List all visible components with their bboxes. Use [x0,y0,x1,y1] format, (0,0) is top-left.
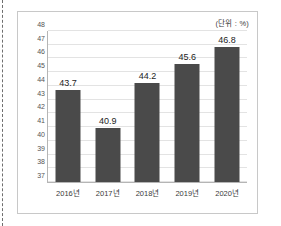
y-axis-tick-label: 41 [37,117,45,124]
y-axis-tick-label: 43 [37,89,45,96]
y-axis-tick-label: 37 [37,172,45,179]
bar[interactable] [55,90,80,182]
y-axis-tick-label: 40 [37,130,45,137]
bar-group: 45.62019년 [167,31,207,182]
y-axis-tick-label: 45 [37,62,45,69]
y-axis-tick-label: 38 [37,158,45,165]
unit-annotation: (단위 : %) [215,17,249,28]
plot-area: 373839404142434445464748 43.72016년40.920… [47,31,247,183]
bar-value-label: 46.8 [218,35,236,45]
y-axis-tick-label: 48 [37,21,45,28]
bar-group: 44.22018년 [128,31,168,182]
x-axis-tick-label: 2019년 [175,187,199,198]
chart-card: (단위 : %) 373839404142434445464748 43.720… [17,11,258,214]
y-axis-tick-label: 42 [37,103,45,110]
bar-value-label: 43.7 [59,78,77,88]
x-axis-tick-label: 2018년 [136,187,160,198]
bar[interactable] [95,128,120,182]
y-axis-tick-label: 44 [37,75,45,82]
y-axis-tick-label: 47 [37,34,45,41]
x-axis-tick-label: 2016년 [56,187,80,198]
bar-value-label: 40.9 [99,116,117,126]
bar[interactable] [135,83,160,182]
bar-value-label: 44.2 [139,71,157,81]
x-axis-tick-label: 2020년 [215,187,239,198]
bar-group: 46.82020년 [207,31,247,182]
bar-group: 40.92017년 [88,31,128,182]
bar-group: 43.72016년 [48,31,88,182]
bar[interactable] [175,64,200,182]
y-axis-tick-label: 46 [37,48,45,55]
bar-series: 43.72016년40.92017년44.22018년45.62019년46.8… [48,31,247,182]
left-edge-dashed-rule [2,0,3,226]
bar[interactable] [215,47,240,182]
x-axis-tick-label: 2017년 [96,187,120,198]
bar-value-label: 45.6 [179,52,197,62]
y-axis-tick-label: 39 [37,144,45,151]
